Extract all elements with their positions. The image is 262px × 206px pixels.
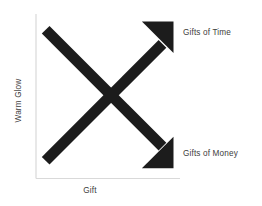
down-arrow-body-icon xyxy=(42,40,167,165)
warm-glow-gift-diagram: Gifts of Time Gifts of Money Gift Warm G… xyxy=(0,0,262,206)
label-gifts-of-time: Gifts of Time xyxy=(183,28,231,37)
up-arrow-body-icon xyxy=(42,26,167,150)
label-gifts-of-money: Gifts of Money xyxy=(183,149,238,158)
y-axis-label: Warm Glow xyxy=(14,56,23,146)
x-axis-label: Gift xyxy=(0,186,180,195)
